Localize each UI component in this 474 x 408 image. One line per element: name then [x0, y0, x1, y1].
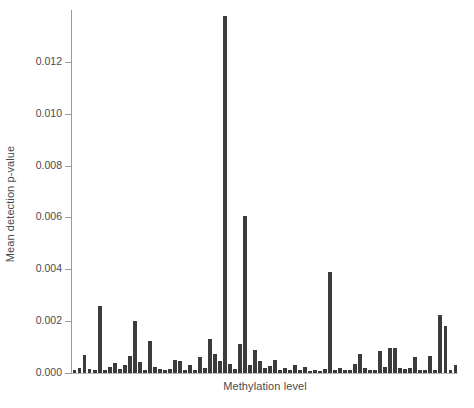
bar — [73, 370, 77, 373]
bar — [454, 365, 458, 373]
bar — [318, 371, 322, 373]
bar — [158, 369, 162, 373]
bar — [333, 370, 337, 373]
chart-figure: Mean detection p-value Methylation level… — [0, 0, 474, 408]
bar — [288, 370, 292, 373]
x-axis-label: Methylation level — [72, 380, 458, 392]
bar-series — [72, 10, 458, 373]
bar — [163, 370, 167, 373]
bar — [383, 367, 387, 373]
bar — [78, 368, 82, 373]
bar — [123, 365, 127, 373]
bar — [348, 370, 352, 373]
x-axis-baseline — [72, 373, 458, 374]
bar — [403, 369, 407, 373]
y-tick-mark — [65, 166, 71, 167]
bar — [268, 366, 272, 373]
bar — [193, 370, 197, 373]
bar — [243, 216, 247, 373]
bar — [308, 371, 312, 373]
bar — [108, 367, 112, 373]
bar — [293, 365, 297, 373]
y-tick-label: 0.004 — [0, 262, 62, 274]
y-tick-label: 0.012 — [0, 55, 62, 67]
bar — [113, 363, 117, 373]
bar — [298, 370, 302, 373]
bar — [223, 16, 227, 373]
bar — [398, 368, 402, 373]
bar — [153, 367, 157, 373]
bar — [358, 354, 362, 373]
bar — [373, 370, 377, 373]
bar — [83, 355, 87, 373]
y-tick-label: 0.010 — [0, 107, 62, 119]
y-tick-label: 0.002 — [0, 314, 62, 326]
bar — [248, 365, 252, 373]
bar — [428, 356, 432, 373]
y-tick-mark — [65, 62, 71, 63]
bar — [168, 369, 172, 373]
bar — [103, 370, 107, 373]
bar — [88, 369, 92, 373]
y-tick-mark — [65, 373, 71, 374]
bar — [323, 369, 327, 373]
bar — [343, 370, 347, 373]
bar — [444, 326, 448, 373]
bar — [183, 370, 187, 373]
bar — [218, 361, 222, 373]
bar — [133, 321, 137, 373]
bar — [313, 370, 317, 373]
bar — [143, 370, 147, 373]
y-tick-mark — [65, 269, 71, 270]
y-tick-label: 0.008 — [0, 159, 62, 171]
bar — [438, 315, 442, 373]
bar — [418, 370, 422, 373]
bar — [263, 368, 267, 373]
bar — [413, 357, 417, 373]
bar — [363, 368, 367, 373]
bar — [198, 357, 202, 373]
bar — [188, 365, 192, 373]
bar — [303, 367, 307, 373]
bar — [338, 368, 342, 373]
bar — [98, 306, 102, 373]
bar — [228, 364, 232, 373]
y-tick-label: 0.006 — [0, 210, 62, 222]
bar — [178, 361, 182, 373]
bar — [408, 368, 412, 373]
bar — [148, 341, 152, 373]
y-tick-mark — [65, 114, 71, 115]
bar — [253, 350, 257, 373]
bar — [388, 348, 392, 373]
bar — [93, 370, 97, 373]
bar — [208, 339, 212, 373]
bar — [203, 368, 207, 373]
bar — [328, 272, 332, 373]
bar — [258, 361, 262, 373]
bar — [433, 370, 437, 373]
y-tick-mark — [65, 217, 71, 218]
bar — [353, 364, 357, 373]
bar — [213, 354, 217, 373]
bar — [393, 348, 397, 373]
bar — [278, 370, 282, 373]
bar — [368, 370, 372, 373]
bar — [233, 369, 237, 373]
bar — [138, 362, 142, 373]
bar — [273, 360, 277, 373]
y-tick-mark — [65, 321, 71, 322]
bar — [378, 351, 382, 373]
bar — [449, 370, 453, 373]
bar — [128, 356, 132, 373]
bar — [118, 369, 122, 373]
bar — [423, 370, 427, 373]
y-tick-label: 0.000 — [0, 366, 62, 378]
bar — [283, 368, 287, 373]
bar — [173, 360, 177, 373]
bar — [238, 344, 242, 373]
